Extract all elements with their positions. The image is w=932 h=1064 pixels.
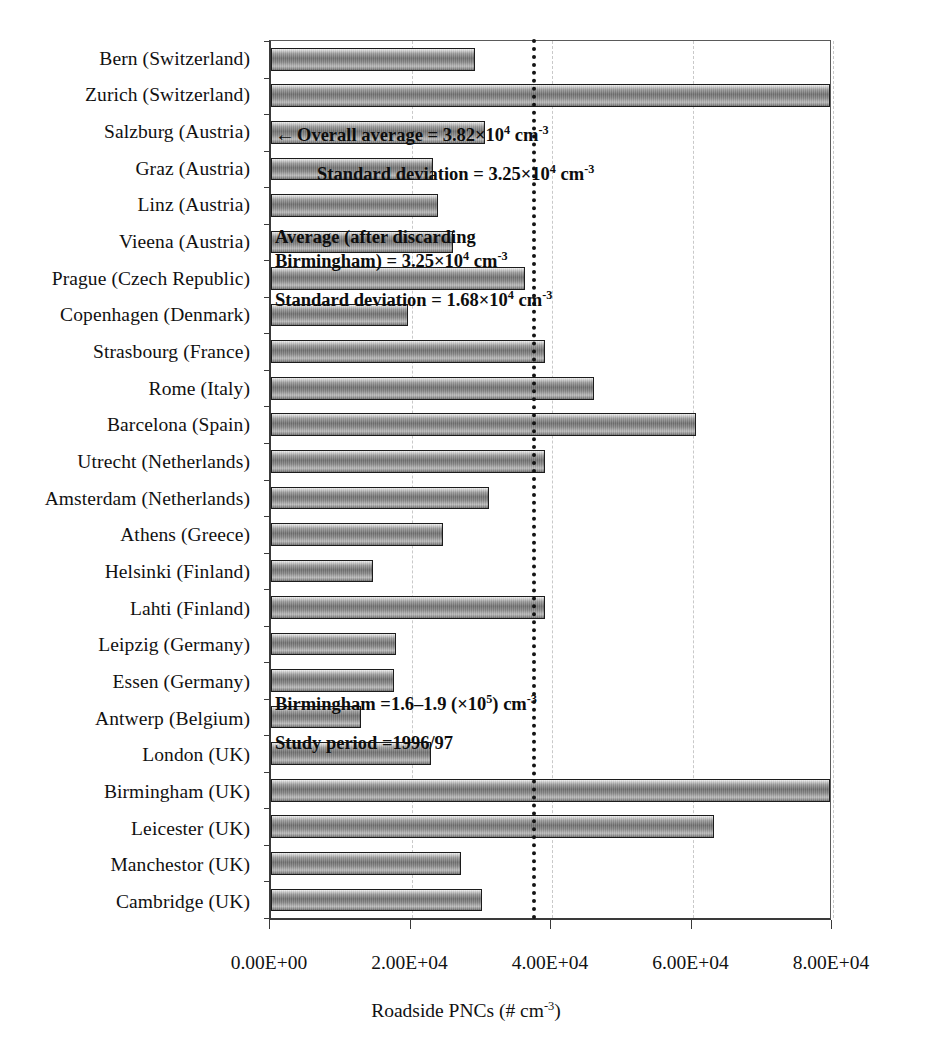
bar-row [271,845,830,882]
bar [271,889,482,912]
annotation-discarded-average-text: Birmingham) = 3.25×10 [275,251,463,271]
y-axis-tick [264,735,271,736]
bar-row [271,78,830,115]
annotation-discarded-average-unit: cm [469,251,497,271]
x-axis-tick [831,920,832,929]
y-axis-label: Bern (Switzerland) [0,40,258,77]
x-axis-tick-label: 4.00E+04 [512,952,589,974]
bar [271,633,396,656]
y-axis-label: Graz (Austria) [0,150,258,187]
figure-caption-truncated [8,1048,924,1064]
y-axis-label: Utrecht (Netherlands) [0,443,258,480]
bar-row [271,516,830,553]
y-axis-tick [264,918,271,919]
y-axis-tick [264,187,271,188]
y-axis-tick [264,516,271,517]
bar [271,450,545,473]
y-axis-label: Rome (Italy) [0,370,258,407]
annotation-overall-sd: Standard deviation = 3.25×104 cm-3 [317,164,594,186]
annotation-discarded-sd-text: Standard deviation = 1.68×10 [275,290,508,310]
x-axis-title-tail: ) [554,1000,561,1021]
y-axis-label: Leipzig (Germany) [0,627,258,664]
x-axis-ticks-group [269,920,831,930]
annotation-discarded-sd-unit: cm [514,290,542,310]
x-axis-tick-label: 0.00E+00 [231,952,308,974]
annotation-discarded-average-line2: Birmingham) = 3.25×104 cm-3 [275,251,508,273]
bar [271,852,461,875]
bar-row [271,333,830,370]
y-axis-label: Amsterdam (Netherlands) [0,480,258,517]
bar-row [271,41,830,78]
annotation-discarded-sd: Standard deviation = 1.68×104 cm-3 [275,290,552,312]
annotation-birmingham-text: Birmingham =1.6–1.9 (×10 [275,694,486,714]
y-axis-label: Lahti (Finland) [0,590,258,627]
bar-row [271,370,830,407]
y-axis-tick [264,662,271,663]
bar [271,413,696,436]
x-axis-tick-label: 8.00E+04 [793,952,870,974]
annotation-birmingham-note: Birmingham =1.6–1.9 (×105) cm-3 [275,694,537,716]
bar [271,779,830,802]
x-axis-tick [269,920,270,929]
annotation-study-period: Study period =1996/97 [275,733,453,755]
x-axis-tick [550,920,551,929]
y-axis-label: Vieena (Austria) [0,223,258,260]
y-axis-label: Linz (Austria) [0,187,258,224]
y-axis-label: Barcelona (Spain) [0,407,258,444]
x-axis-tick [410,920,411,929]
y-axis-tick [264,370,271,371]
bar [271,560,373,583]
bar-chart-figure: Bern (Switzerland)Zurich (Switzerland)Sa… [0,0,932,1064]
annotation-discarded-average-line1: Average (after discarding [275,227,476,249]
y-axis-label: Zurich (Switzerland) [0,77,258,114]
y-axis-label: Birmingham (UK) [0,773,258,810]
y-axis-label: Antwerp (Belgium) [0,700,258,737]
bar [271,84,830,107]
annotation-overall-average-unit-exp: -3 [538,123,548,137]
y-axis-label: Cambridge (UK) [0,883,258,920]
annotation-overall-average: ←Overall average = 3.82×104 cm-3 [275,123,549,147]
y-axis-tick [264,406,271,407]
y-axis-tick [264,224,271,225]
bar [271,596,545,619]
x-axis-title-exp: -3 [544,999,554,1013]
annotation-birmingham-unit-exp: -3 [527,692,537,706]
bar [271,48,475,71]
bar [271,194,438,217]
annotation-discarded-average-unit-exp: -3 [497,249,507,263]
y-axis-tick [264,881,271,882]
bar [271,487,489,510]
y-axis-tick [264,480,271,481]
y-axis-tick [264,553,271,554]
bar [271,377,594,400]
x-axis-tick-label: 6.00E+04 [652,952,729,974]
y-axis-label: Leicester (UK) [0,810,258,847]
annotation-overall-sd-text: Standard deviation = 3.25×10 [317,164,550,184]
y-axis-label: Athens (Greece) [0,517,258,554]
annotation-overall-sd-unit: cm [556,164,584,184]
bar [271,340,545,363]
y-axis-label: Manchestor (UK) [0,847,258,884]
y-axis-tick [264,114,271,115]
y-axis-tick [264,845,271,846]
y-axis-label: Essen (Germany) [0,663,258,700]
y-axis-tick [264,297,271,298]
y-axis-tick [264,151,271,152]
y-axis-tick [264,808,271,809]
y-axis-tick [264,260,271,261]
bar-row [271,772,830,809]
bar-row [271,626,830,663]
bar-row [271,808,830,845]
y-axis-label: Strasbourg (France) [0,333,258,370]
y-axis-label: London (UK) [0,737,258,774]
y-axis-tick [264,626,271,627]
annotation-overall-sd-unit-exp: -3 [584,162,594,176]
bar-row [271,480,830,517]
plot-area: ←Overall average = 3.82×104 cm-3 Standar… [269,40,831,920]
annotation-discarded-sd-unit-exp: -3 [542,288,552,302]
x-axis-tick-label: 2.00E+04 [371,952,448,974]
bar-row [271,187,830,224]
bar [271,523,443,546]
y-axis-label: Helsinki (Finland) [0,553,258,590]
bar [271,815,714,838]
